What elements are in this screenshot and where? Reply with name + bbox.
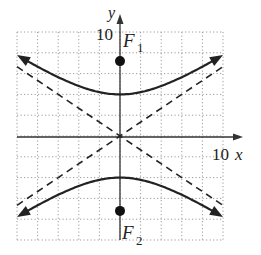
focus-2-point bbox=[115, 206, 125, 216]
focus1-subscript: 1 bbox=[137, 40, 144, 55]
curve-arrowhead-icon bbox=[209, 206, 223, 217]
focus2-label: F bbox=[121, 222, 134, 243]
focus2-subscript: 2 bbox=[136, 233, 143, 248]
hyperbola-plot: y 10 10 x F 1 F 2 bbox=[0, 0, 261, 255]
x-tick-label: 10 bbox=[212, 145, 229, 164]
y-axis-label: y bbox=[106, 4, 116, 22]
focus1-label: F bbox=[122, 30, 135, 51]
curve-arrowhead-icon bbox=[17, 55, 31, 66]
x-axis-label: x bbox=[234, 145, 243, 164]
curve-arrowhead-icon bbox=[17, 206, 31, 217]
focus-1-point bbox=[115, 56, 125, 66]
y-tick-label: 10 bbox=[96, 25, 113, 44]
curve-arrowhead-icon bbox=[209, 55, 223, 66]
y-axis-arrow-icon bbox=[117, 14, 124, 24]
x-axis-arrow-icon bbox=[233, 134, 243, 141]
